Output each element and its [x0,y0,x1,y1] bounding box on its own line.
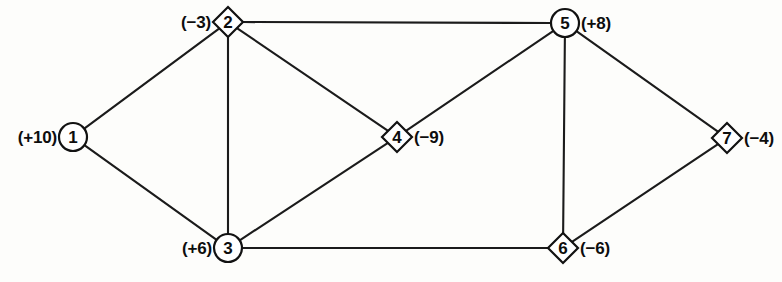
network-diagram: 1234567 (+10)(−3)(+6)(−9)(+8)(−6)(−4) [0,0,782,282]
edge-3-4[interactable] [240,143,388,240]
node-3[interactable]: 3 [214,234,242,262]
supply-label-node-1: (+10) [18,129,57,146]
node-5[interactable]: 5 [551,9,579,37]
edge-1-2[interactable] [84,28,219,128]
node-6[interactable]: 6 [548,233,578,263]
edge-5-7[interactable] [576,31,718,132]
edge-2-4[interactable] [237,28,388,131]
node-id-label-3: 3 [223,239,232,258]
node-2[interactable]: 2 [213,7,243,37]
node-id-label-6: 6 [558,239,567,258]
edge-2-5[interactable] [243,22,551,23]
supply-label-node-6: (−6) [580,240,610,257]
edge-6-7[interactable] [572,144,718,242]
edge-4-5[interactable] [406,31,553,131]
edge-5-6[interactable] [563,37,565,233]
network-graph-svg: 1234567 [0,0,782,282]
node-7[interactable]: 7 [712,123,742,153]
supply-label-node-3: (+6) [182,240,212,257]
edge-1-3[interactable] [84,145,216,240]
nodes-group: 1234567 [59,7,742,263]
supply-label-node-2: (−3) [181,14,211,31]
supply-label-node-5: (+8) [581,15,611,32]
node-4[interactable]: 4 [382,122,412,152]
node-id-label-4: 4 [392,128,402,147]
node-id-label-1: 1 [68,128,77,147]
supply-label-node-4: (−9) [414,129,444,146]
supply-label-node-7: (−4) [744,130,774,147]
node-id-label-2: 2 [223,13,232,32]
node-id-label-7: 7 [722,129,731,148]
node-id-label-5: 5 [560,14,569,33]
node-1[interactable]: 1 [59,123,87,151]
